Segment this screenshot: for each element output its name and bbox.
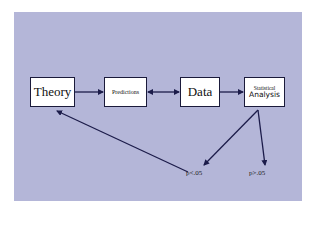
data-label: Data [188, 84, 213, 100]
predictions-label: Predictions [112, 89, 139, 95]
statistical-analysis-node: Statistical Analysis [244, 77, 285, 107]
theory-label: Theory [34, 84, 72, 100]
predictions-node: Predictions [104, 77, 147, 107]
data-node: Data [180, 77, 220, 107]
arrow-analysis-significant [204, 110, 258, 165]
arrow-analysis-not-significant [258, 110, 265, 165]
theory-node: Theory [30, 77, 75, 107]
not-significant-outcome-label: p>.05 [249, 169, 265, 177]
arrows-layer [0, 0, 319, 246]
analysis-label: Analysis [249, 91, 280, 99]
arrow-significant-theory [57, 111, 188, 172]
significant-outcome-label: p<.05 [186, 169, 202, 177]
